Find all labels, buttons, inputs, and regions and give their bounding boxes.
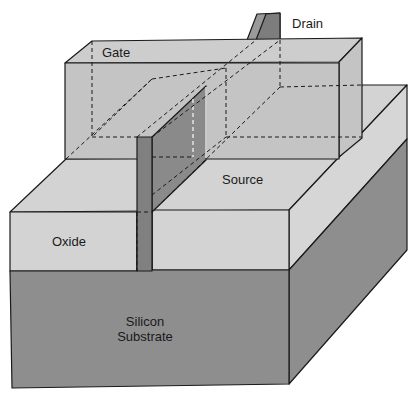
label-substrate-line2: Substrate [105, 329, 185, 344]
label-gate: Gate [102, 45, 130, 60]
label-substrate-line1: Silicon [105, 314, 185, 329]
label-drain: Drain [292, 16, 323, 31]
label-silicon-substrate: Silicon Substrate [105, 314, 185, 344]
label-oxide: Oxide [52, 234, 86, 249]
oxide-front-right [152, 210, 289, 270]
finfet-drawing [0, 0, 418, 398]
label-source: Source [222, 172, 263, 187]
fin-front-face [137, 137, 152, 271]
finfet-diagram: Drain Gate Source Oxide Silicon Substrat… [0, 0, 418, 398]
